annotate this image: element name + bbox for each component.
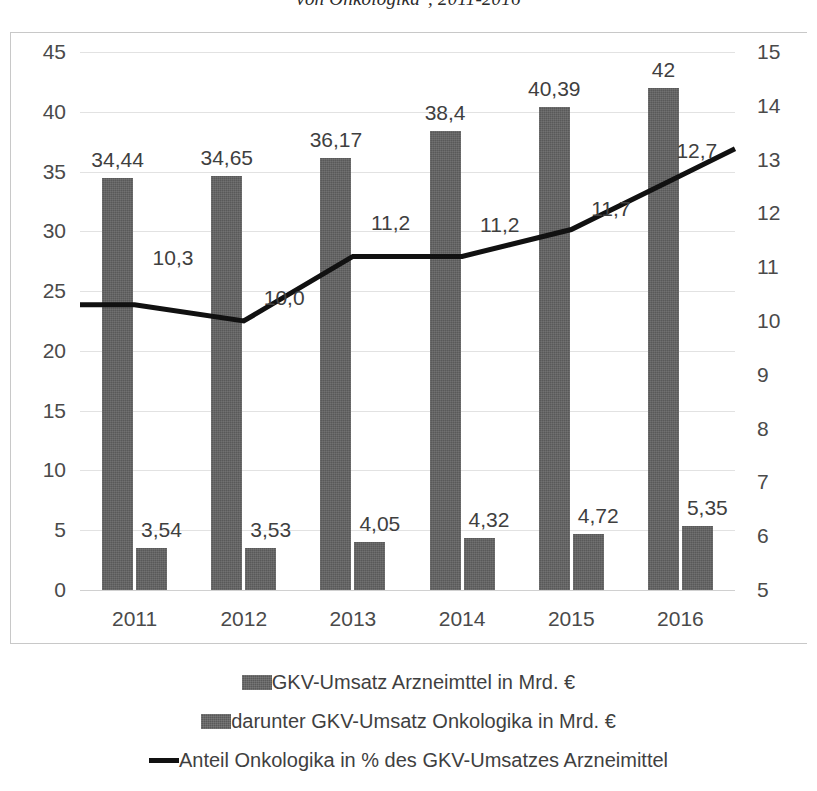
right-axis-tick: 11 <box>757 256 803 277</box>
chart-legend: GKV-Umsatz Arzneimttel in Mrd. €darunter… <box>0 663 817 780</box>
x-axis-tick: 2011 <box>80 607 189 631</box>
left-axis-tick: 5 <box>20 519 66 540</box>
legend-item[interactable]: Anteil Onkologika in % des GKV-Umsatzes … <box>0 741 817 780</box>
legend-swatch-icon <box>201 714 231 729</box>
left-axis-tick: 15 <box>20 400 66 421</box>
left-axis-tick: 30 <box>20 220 66 241</box>
line-value-label: 10,0 <box>264 287 305 308</box>
right-axis-tick: 7 <box>757 471 803 492</box>
chart-title: von Onkologika", 2011-2016 <box>0 0 817 10</box>
legend-label: GKV-Umsatz Arzneimttel in Mrd. € <box>272 671 575 694</box>
x-axis-tick: 2016 <box>626 607 735 631</box>
line-value-label: 10,3 <box>153 247 194 268</box>
legend-label: Anteil Onkologika in % des GKV-Umsatzes … <box>179 749 668 772</box>
right-axis-tick: 8 <box>757 418 803 439</box>
left-axis-tick: 10 <box>20 459 66 480</box>
line-path[interactable] <box>80 149 735 321</box>
right-axis-tick: 6 <box>757 525 803 546</box>
left-axis-tick: 40 <box>20 101 66 122</box>
x-axis-tick: 2012 <box>189 607 298 631</box>
left-axis-tick: 45 <box>20 41 66 62</box>
x-axis-tick: 2013 <box>298 607 407 631</box>
right-axis-tick: 10 <box>757 310 803 331</box>
left-axis-tick: 35 <box>20 161 66 182</box>
x-axis-tick: 2015 <box>517 607 626 631</box>
left-axis-tick: 0 <box>20 579 66 600</box>
chart-root: von Onkologika", 2011-2016 0510152025303… <box>0 0 817 791</box>
line-series <box>80 52 735 590</box>
right-axis-tick: 14 <box>757 95 803 116</box>
right-axis-tick: 15 <box>757 41 803 62</box>
right-axis-tick: 12 <box>757 202 803 223</box>
right-axis-tick: 13 <box>757 149 803 170</box>
line-value-label: 11,2 <box>371 212 410 233</box>
right-axis-tick: 5 <box>757 579 803 600</box>
x-axis-tick: 2014 <box>408 607 517 631</box>
gridline <box>80 590 735 591</box>
line-value-label: 11,7 <box>591 198 630 219</box>
legend-swatch-icon <box>242 675 272 690</box>
legend-line-marker <box>149 758 179 763</box>
line-value-label: 12,7 <box>676 140 717 161</box>
legend-label: darunter GKV-Umsatz Onkologika in Mrd. € <box>231 710 616 733</box>
legend-item[interactable]: GKV-Umsatz Arzneimttel in Mrd. € <box>0 663 817 702</box>
legend-item[interactable]: darunter GKV-Umsatz Onkologika in Mrd. € <box>0 702 817 741</box>
left-axis-tick: 25 <box>20 280 66 301</box>
plot-area: 34,443,5434,653,5336,174,0538,44,3240,39… <box>80 52 735 590</box>
left-axis-tick: 20 <box>20 340 66 361</box>
line-value-label: 11,2 <box>480 214 519 235</box>
right-axis-tick: 9 <box>757 364 803 385</box>
